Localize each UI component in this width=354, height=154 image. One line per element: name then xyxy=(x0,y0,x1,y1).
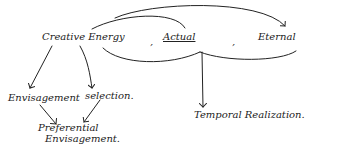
node-selection: selection. xyxy=(85,90,134,101)
node-preferential-line1: Preferential xyxy=(38,122,99,133)
node-envisagement: Envisagement xyxy=(8,92,80,103)
node-actual: Actual xyxy=(163,31,195,42)
node-temporal-realization: Temporal Realization. xyxy=(194,109,305,120)
node-eternal: Eternal xyxy=(258,31,296,42)
separator: , xyxy=(150,36,153,47)
node-creative-energy: Creative Energy xyxy=(42,31,125,42)
node-preferential-line2: Envisagement. xyxy=(45,133,120,144)
separator: , xyxy=(232,36,235,47)
handwritten-diagram: Creative Energy , Actual , Eternal Envis… xyxy=(0,0,354,154)
